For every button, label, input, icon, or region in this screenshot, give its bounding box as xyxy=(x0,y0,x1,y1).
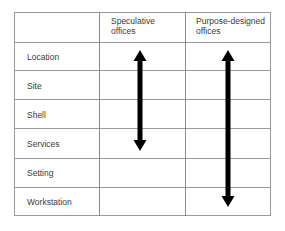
double-arrow-icon xyxy=(0,0,285,231)
